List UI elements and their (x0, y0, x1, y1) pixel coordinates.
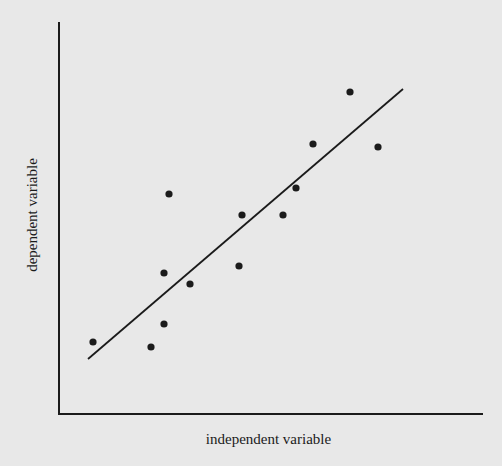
data-point (374, 143, 381, 150)
trend-line (88, 89, 403, 359)
data-point (238, 211, 245, 218)
data-point (235, 262, 242, 269)
x-axis-label: independent variable (0, 431, 502, 448)
data-point (346, 88, 353, 95)
data-point (147, 343, 154, 350)
data-point (309, 140, 316, 147)
data-point (186, 280, 193, 287)
data-point (292, 184, 299, 191)
y-axis-label: dependent variable (24, 158, 41, 272)
scatter-chart: dependent variable independent variable (0, 0, 502, 466)
data-point (279, 211, 286, 218)
data-points (89, 88, 381, 350)
plot-area (0, 0, 502, 466)
data-point (165, 190, 172, 197)
data-point (160, 320, 167, 327)
data-point (89, 338, 96, 345)
data-point (160, 269, 167, 276)
